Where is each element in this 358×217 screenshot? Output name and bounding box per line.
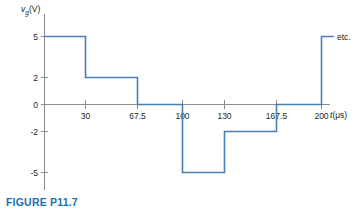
y-tick-label: 0 [33,100,38,110]
y-axis-label-unit: (V) [29,4,41,14]
y-axis-label: vg(V) [21,4,40,17]
x-tick-label: 200 [314,111,328,121]
figure-caption: FIGURE P11.7 [6,196,78,208]
y-tick-label: 2 [33,73,38,83]
y-tick-label: 5 [33,32,38,42]
x-tick-label: 30 [81,111,91,121]
x-tick-label: 130 [217,111,231,121]
x-tick-label: 67.5 [129,111,146,121]
y-axis-tick-labels: 5 2 0 -2 -5 [30,32,38,178]
y-tick-label: -5 [30,168,38,178]
figure-plot: 5 2 0 -2 -5 30 67.5 100 130 167.5 200 vg… [0,0,358,217]
etc-label: etc. [337,32,351,42]
x-axis-label-unit: (μs) [332,110,347,120]
x-axis-label: t(μs) [330,110,347,120]
x-axis-tick-labels: 30 67.5 100 130 167.5 200 [81,111,329,121]
y-tick-label: -2 [30,127,38,137]
